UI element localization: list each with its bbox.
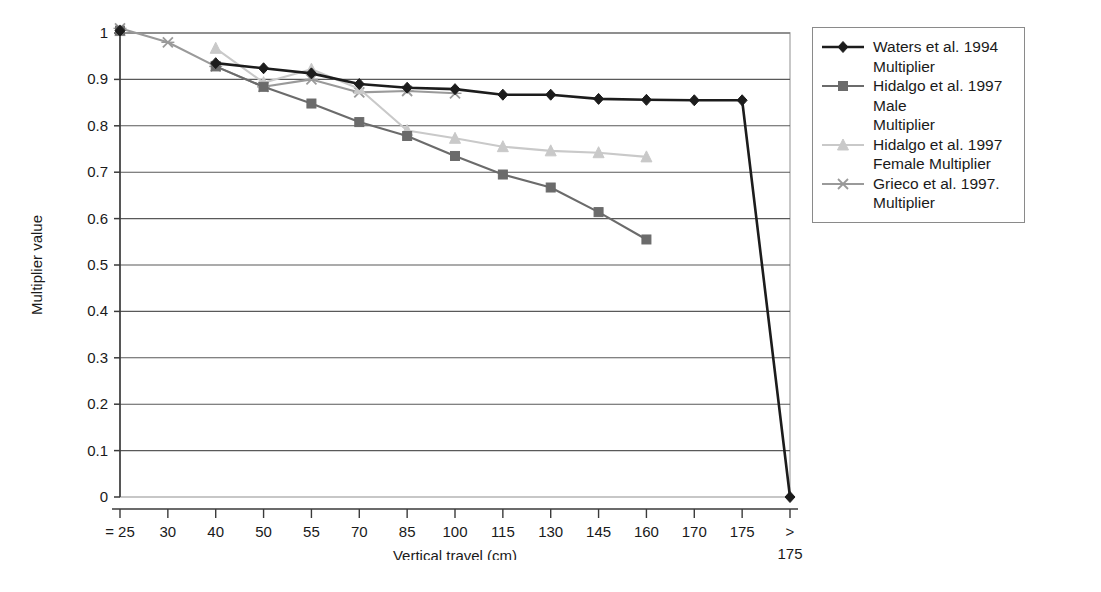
y-tick-label: 0: [100, 488, 108, 505]
x-tick-label: 130: [538, 523, 563, 540]
x-tick-label: = 25: [105, 523, 135, 540]
y-tick-label: 0.9: [87, 70, 108, 87]
legend-label: Hidalgo et al. 1997 Male Multiplier: [873, 76, 1016, 135]
x-tick-label: 170: [682, 523, 707, 540]
x-tick-label: 160: [634, 523, 659, 540]
x-tick-label: 175: [730, 523, 755, 540]
y-tick-label: 0.3: [87, 349, 108, 366]
x-tick-label: 30: [160, 523, 177, 540]
x-tick-label: >: [786, 523, 795, 540]
chart-figure: 00.10.20.30.40.50.60.70.80.91= 253040505…: [0, 0, 1101, 592]
x-tick-label: 145: [586, 523, 611, 540]
y-tick-label: 0.8: [87, 117, 108, 134]
y-axis-title: Multiplier value: [28, 215, 45, 315]
legend-marker-triangle-icon: [820, 135, 866, 154]
x-tick-label: 50: [255, 523, 272, 540]
y-tick-label: 0.5: [87, 256, 108, 273]
chart-legend: Waters et al. 1994 MultiplierHidalgo et …: [812, 27, 1025, 223]
legend-item: Hidalgo et al. 1997 Female Multiplier: [820, 135, 1016, 174]
x-tick-label: 40: [207, 523, 224, 540]
marker-square: [259, 82, 268, 91]
marker-square: [594, 208, 603, 217]
marker-square: [307, 99, 316, 108]
y-tick-label: 0.6: [87, 210, 108, 227]
x-tick-label: 70: [351, 523, 368, 540]
legend-item: Grieco et al. 1997. Multiplier: [820, 174, 1016, 213]
marker-square: [355, 118, 364, 127]
marker-diamond: [838, 42, 848, 53]
x-axis-title: Vertical travel (cm): [393, 547, 517, 560]
marker-square: [642, 235, 651, 244]
y-tick-label: 1: [100, 24, 108, 41]
marker-square: [498, 170, 507, 179]
y-tick-label: 0.4: [87, 302, 108, 319]
marker-square: [546, 183, 555, 192]
y-tick-label: 0.7: [87, 163, 108, 180]
marker-square: [839, 82, 848, 91]
legend-label: Grieco et al. 1997. Multiplier: [873, 174, 1000, 213]
marker-square: [451, 151, 460, 160]
legend-item: Waters et al. 1994 Multiplier: [820, 37, 1016, 76]
x-tick-label: 100: [442, 523, 467, 540]
legend-marker-square-icon: [820, 76, 866, 95]
legend-item: Hidalgo et al. 1997 Male Multiplier: [820, 76, 1016, 135]
legend-marker-diamond-icon: [820, 37, 866, 56]
marker-square: [403, 132, 412, 141]
x-tick-label: 55: [303, 523, 320, 540]
x-tick-label: 175: [777, 545, 802, 560]
y-tick-label: 0.1: [87, 442, 108, 459]
line-chart-canvas: 00.10.20.30.40.50.60.70.80.91= 253040505…: [0, 0, 810, 560]
x-tick-label: 85: [399, 523, 416, 540]
legend-label: Hidalgo et al. 1997 Female Multiplier: [873, 135, 1002, 174]
x-tick-label: 115: [491, 523, 515, 540]
legend-marker-x-icon: [820, 174, 866, 193]
legend-label: Waters et al. 1994 Multiplier: [873, 37, 998, 76]
y-tick-label: 0.2: [87, 395, 108, 412]
